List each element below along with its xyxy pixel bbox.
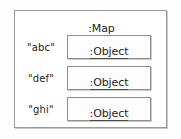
object-instance-label: :Object <box>90 107 129 121</box>
object-instance-label: :Object <box>90 76 129 90</box>
object-instance-box: :Object <box>67 66 151 90</box>
map-entry-row: "ghi" :Object <box>15 97 166 128</box>
map-entry-key: "ghi" <box>15 104 67 116</box>
map-entry-row: "abc" :Object <box>15 35 166 66</box>
map-object-title: :Map <box>88 22 115 36</box>
map-object-box: :Map "abc" :Object "def" :Object <box>14 10 167 128</box>
object-instance-label-wrap: :Object <box>68 71 150 90</box>
map-entry-row: "def" :Object <box>15 66 166 97</box>
object-instance-box: :Object <box>67 35 151 59</box>
map-title-row: :Map <box>15 17 166 36</box>
object-instance-box: :Object <box>67 97 151 121</box>
object-instance-label: :Object <box>90 45 129 59</box>
diagram-canvas: :Map "abc" :Object "def" :Object <box>0 0 181 139</box>
object-instance-label-wrap: :Object <box>68 40 150 59</box>
map-entry-key: "abc" <box>15 42 67 54</box>
map-entries-list: "abc" :Object "def" :Object "ghi" <box>15 35 166 128</box>
object-instance-label-wrap: :Object <box>68 102 150 121</box>
map-entry-key: "def" <box>15 73 67 85</box>
